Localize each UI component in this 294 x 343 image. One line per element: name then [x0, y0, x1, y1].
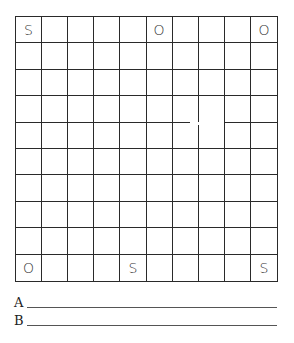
board-cell[interactable]	[94, 123, 120, 149]
board-cell[interactable]	[199, 96, 225, 122]
board-cell[interactable]	[68, 202, 94, 228]
board-cell[interactable]	[120, 149, 146, 175]
board-cell[interactable]	[147, 149, 173, 175]
board-cell[interactable]	[68, 17, 94, 43]
board-cell[interactable]	[225, 149, 251, 175]
board-cell[interactable]	[225, 202, 251, 228]
board-cell[interactable]: S	[251, 255, 277, 281]
board-cell[interactable]: O	[147, 17, 173, 43]
board-cell[interactable]	[94, 96, 120, 122]
board-cell[interactable]	[199, 123, 225, 149]
board-cell[interactable]	[147, 228, 173, 254]
board-cell[interactable]	[173, 43, 199, 69]
board-cell[interactable]	[68, 96, 94, 122]
board-cell[interactable]	[251, 149, 277, 175]
board-cell[interactable]	[251, 202, 277, 228]
board-cell[interactable]	[94, 149, 120, 175]
board-cell[interactable]	[16, 149, 42, 175]
board-cell[interactable]	[173, 255, 199, 281]
board-cell[interactable]	[173, 123, 199, 149]
player-b-name-field[interactable]	[27, 325, 277, 326]
board-cell[interactable]	[16, 123, 42, 149]
board-cell[interactable]	[42, 255, 68, 281]
board-cell[interactable]	[16, 43, 42, 69]
board-cell[interactable]	[251, 123, 277, 149]
board-cell[interactable]	[120, 70, 146, 96]
board-cell[interactable]	[94, 17, 120, 43]
board-cell[interactable]	[42, 70, 68, 96]
board-cell[interactable]	[251, 175, 277, 201]
board-cell[interactable]: O	[251, 17, 277, 43]
board-cell[interactable]	[16, 202, 42, 228]
board-cell[interactable]	[147, 43, 173, 69]
board-cell[interactable]	[225, 96, 251, 122]
board-cell[interactable]	[120, 17, 146, 43]
board-cell[interactable]	[225, 43, 251, 69]
board-cell[interactable]	[120, 175, 146, 201]
board-cell[interactable]	[199, 228, 225, 254]
board-cell[interactable]: S	[16, 17, 42, 43]
board-cell[interactable]: O	[16, 255, 42, 281]
board-cell[interactable]	[147, 175, 173, 201]
board-cell[interactable]	[120, 202, 146, 228]
board-cell[interactable]	[16, 175, 42, 201]
board-cell[interactable]	[68, 175, 94, 201]
board-cell[interactable]	[225, 175, 251, 201]
player-a-name-field[interactable]	[27, 307, 277, 308]
board-cell[interactable]	[225, 123, 251, 149]
board-cell[interactable]	[199, 149, 225, 175]
board-cell[interactable]	[94, 228, 120, 254]
board-cell[interactable]	[147, 123, 173, 149]
board-cell[interactable]	[199, 255, 225, 281]
board-cell[interactable]	[225, 255, 251, 281]
board-cell[interactable]	[173, 96, 199, 122]
board-cell[interactable]	[225, 17, 251, 43]
board-cell[interactable]	[225, 70, 251, 96]
board-cell[interactable]	[68, 228, 94, 254]
board-cell[interactable]	[16, 228, 42, 254]
board-cell[interactable]	[68, 123, 94, 149]
board-cell[interactable]	[16, 96, 42, 122]
board-cell[interactable]	[199, 175, 225, 201]
board-cell[interactable]	[173, 149, 199, 175]
board-cell[interactable]	[199, 43, 225, 69]
board-cell[interactable]	[68, 43, 94, 69]
board-cell[interactable]	[42, 175, 68, 201]
board-cell[interactable]	[94, 175, 120, 201]
board-cell[interactable]	[120, 228, 146, 254]
board-cell[interactable]	[199, 70, 225, 96]
board-cell[interactable]	[42, 202, 68, 228]
board-cell[interactable]	[251, 228, 277, 254]
board-cell[interactable]	[42, 123, 68, 149]
board-cell[interactable]: S	[120, 255, 146, 281]
board-cell[interactable]	[225, 228, 251, 254]
board-cell[interactable]	[147, 70, 173, 96]
board-cell[interactable]	[42, 149, 68, 175]
board-cell[interactable]	[68, 149, 94, 175]
board-cell[interactable]	[173, 228, 199, 254]
board-cell[interactable]	[68, 70, 94, 96]
board-cell[interactable]	[94, 70, 120, 96]
board-cell[interactable]	[199, 17, 225, 43]
board-cell[interactable]	[68, 255, 94, 281]
board-cell[interactable]	[173, 175, 199, 201]
board-cell[interactable]	[94, 255, 120, 281]
board-cell[interactable]	[199, 202, 225, 228]
board-cell[interactable]	[16, 70, 42, 96]
board-cell[interactable]	[94, 202, 120, 228]
board-cell[interactable]	[173, 17, 199, 43]
board-cell[interactable]	[42, 96, 68, 122]
board-cell[interactable]	[173, 202, 199, 228]
board-cell[interactable]	[120, 123, 146, 149]
board-cell[interactable]	[120, 43, 146, 69]
board-cell[interactable]	[251, 43, 277, 69]
board-cell[interactable]	[42, 228, 68, 254]
board-cell[interactable]	[251, 70, 277, 96]
board-cell[interactable]	[147, 202, 173, 228]
board-cell[interactable]	[147, 96, 173, 122]
board-cell[interactable]	[94, 43, 120, 69]
board-cell[interactable]	[42, 43, 68, 69]
board-cell[interactable]	[251, 96, 277, 122]
board-cell[interactable]	[147, 255, 173, 281]
board-cell[interactable]	[42, 17, 68, 43]
